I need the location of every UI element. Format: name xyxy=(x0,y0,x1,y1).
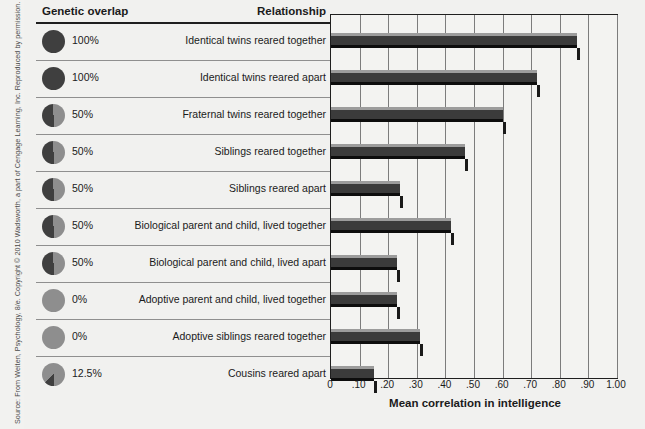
row-divider xyxy=(36,245,330,246)
bar-end-cap xyxy=(465,159,468,171)
row-divider xyxy=(36,319,330,320)
bar xyxy=(331,181,400,196)
genetic-overlap-percent: 0% xyxy=(72,330,87,342)
table-row: 0%Adoptive siblings reared together xyxy=(24,319,330,356)
x-tick-label: .40 xyxy=(437,379,451,390)
relationship-label: Biological parent and child, lived toget… xyxy=(135,219,326,231)
relationship-label: Adoptive siblings reared together xyxy=(172,330,326,342)
bar-end-cap xyxy=(503,122,506,134)
bar xyxy=(331,144,465,159)
bar xyxy=(331,70,537,85)
x-tick-label: .70 xyxy=(523,379,537,390)
header-genetic-overlap: Genetic overlap xyxy=(42,5,128,17)
genetic-overlap-pie-icon xyxy=(42,104,65,127)
genetic-overlap-percent: 50% xyxy=(72,182,93,194)
relationship-label: Cousins reared apart xyxy=(228,367,326,379)
bar-row xyxy=(331,209,617,246)
x-tick-label: .30 xyxy=(409,379,423,390)
genetic-overlap-pie-icon xyxy=(42,289,65,312)
table-row: 50%Fraternal twins reared together xyxy=(24,97,330,134)
table-row: 50%Biological parent and child, lived ap… xyxy=(24,245,330,282)
bar xyxy=(331,329,420,344)
row-divider xyxy=(36,208,330,209)
relationship-label: Identical twins reared apart xyxy=(200,71,326,83)
bar-row xyxy=(331,320,617,357)
genetic-overlap-pie-icon xyxy=(42,326,65,349)
genetic-overlap-pie-icon xyxy=(42,252,65,275)
genetic-overlap-percent: 0% xyxy=(72,293,87,305)
x-tick-label: 1.00 xyxy=(606,379,625,390)
relationship-label: Siblings reared together xyxy=(215,145,327,157)
table-row: 12.5%Cousins reared apart xyxy=(24,356,330,393)
genetic-overlap-percent: 50% xyxy=(72,145,93,157)
source-credit-text: Source: From Weiten, Psychology, 8/e. Co… xyxy=(13,4,22,424)
bar xyxy=(331,218,451,233)
table-row: 50%Siblings reared apart xyxy=(24,171,330,208)
bar-end-cap xyxy=(537,85,540,97)
table-row: 50%Siblings reared together xyxy=(24,134,330,171)
genetic-overlap-percent: 100% xyxy=(72,71,99,83)
x-tick-label: .50 xyxy=(466,379,480,390)
bar-end-cap xyxy=(397,307,400,319)
bar-row xyxy=(331,61,617,98)
bar-row xyxy=(331,283,617,320)
genetic-overlap-pie-icon xyxy=(42,30,65,53)
relationship-table: Genetic overlap Relationship 100%Identic… xyxy=(24,0,330,429)
x-axis-ticks: 0.10.20.30.40.50.60.70.80.901.00 xyxy=(330,379,630,395)
relationship-label: Siblings reared apart xyxy=(229,182,326,194)
bar-end-cap xyxy=(400,196,403,208)
genetic-overlap-percent: 50% xyxy=(72,256,93,268)
bar xyxy=(331,292,397,307)
x-tick-label: 0 xyxy=(327,379,333,390)
genetic-overlap-pie-icon xyxy=(42,363,65,386)
table-row: 50%Biological parent and child, lived to… xyxy=(24,208,330,245)
relationship-label: Biological parent and child, lived apart xyxy=(149,256,326,268)
bar xyxy=(331,33,577,48)
genetic-overlap-percent: 50% xyxy=(72,219,93,231)
genetic-overlap-percent: 50% xyxy=(72,108,93,120)
row-divider xyxy=(36,97,330,98)
bar-end-cap xyxy=(451,233,454,245)
relationship-label: Identical twins reared together xyxy=(185,34,326,46)
table-row: 100%Identical twins reared together xyxy=(24,23,330,60)
relationship-label: Adoptive parent and child, lived togethe… xyxy=(139,293,326,305)
bar xyxy=(331,107,503,122)
bar-end-cap xyxy=(577,48,580,60)
bar-chart: 0.10.20.30.40.50.60.70.80.901.00 Mean co… xyxy=(330,0,645,429)
genetic-overlap-pie-icon xyxy=(42,67,65,90)
row-divider xyxy=(36,282,330,283)
table-row: 0%Adoptive parent and child, lived toget… xyxy=(24,282,330,319)
figure-root: Source: From Weiten, Psychology, 8/e. Co… xyxy=(0,0,645,429)
row-divider xyxy=(36,23,330,24)
x-axis-title: Mean correlation in intelligence xyxy=(330,397,620,409)
bar xyxy=(331,255,397,270)
bar-end-cap xyxy=(420,344,423,356)
source-credit: Source: From Weiten, Psychology, 8/e. Co… xyxy=(0,0,22,429)
x-tick-label: .90 xyxy=(580,379,594,390)
bar-row xyxy=(331,246,617,283)
bar-row xyxy=(331,135,617,172)
x-tick-label: .80 xyxy=(552,379,566,390)
genetic-overlap-percent: 100% xyxy=(72,34,99,46)
plot-area xyxy=(330,14,618,379)
row-divider xyxy=(36,134,330,135)
genetic-overlap-pie-icon xyxy=(42,215,65,238)
gridline xyxy=(617,15,618,378)
bar-row xyxy=(331,98,617,135)
x-tick-label: .20 xyxy=(380,379,394,390)
table-header: Genetic overlap Relationship xyxy=(24,4,330,22)
bar-end-cap xyxy=(397,270,400,282)
row-divider xyxy=(36,60,330,61)
genetic-overlap-pie-icon xyxy=(42,141,65,164)
table-row: 100%Identical twins reared apart xyxy=(24,60,330,97)
relationship-label: Fraternal twins reared together xyxy=(182,108,326,120)
bar-row xyxy=(331,24,617,61)
row-divider xyxy=(36,356,330,357)
x-tick-label: .60 xyxy=(495,379,509,390)
row-divider xyxy=(36,171,330,172)
x-tick-label: .10 xyxy=(352,379,366,390)
bar-row xyxy=(331,172,617,209)
header-relationship: Relationship xyxy=(257,5,326,17)
genetic-overlap-pie-icon xyxy=(42,178,65,201)
genetic-overlap-percent: 12.5% xyxy=(72,367,102,379)
